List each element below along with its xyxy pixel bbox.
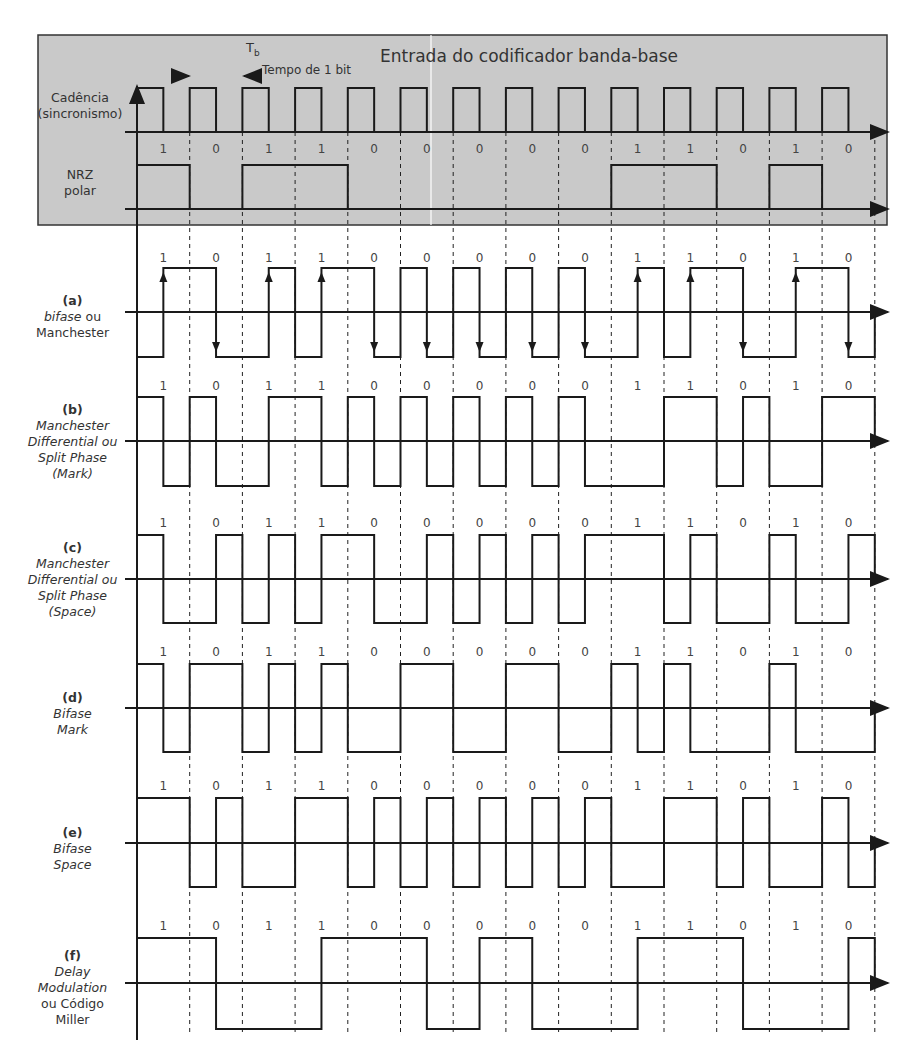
bit-label: 1: [265, 379, 273, 393]
signal-tag: (c): [20, 540, 125, 556]
signal-label-line: Miller: [20, 1012, 125, 1028]
bit-label: 0: [370, 779, 378, 793]
bit-label: 0: [423, 779, 431, 793]
bit-label: 0: [423, 142, 431, 156]
bit-label: 0: [212, 779, 220, 793]
bit-label: 0: [581, 645, 589, 659]
bit-label: 1: [634, 142, 642, 156]
signal-label-line: Delay: [20, 964, 125, 980]
signal-tag: (b): [20, 402, 125, 418]
bit-time-symbol: Tb: [246, 40, 260, 58]
signal-label-line: (Space): [20, 604, 125, 620]
falling-edge-arrow-icon: [212, 342, 220, 352]
diagram-title: Entrada do codificador banda-base: [380, 46, 678, 66]
signal-label-line: Bifase: [20, 706, 125, 722]
bit-label: 1: [265, 919, 273, 933]
bit-label: 0: [370, 516, 378, 530]
falling-edge-arrow-icon: [739, 342, 747, 352]
bit-label: 0: [476, 919, 484, 933]
signal-label-line: (Mark): [20, 466, 125, 482]
signal-label-f: (f)DelayModulationou CódigoMiller: [20, 948, 125, 1028]
bit-label: 0: [423, 516, 431, 530]
signal-label-c: (c)ManchesterDifferential ouSplit Phase(…: [20, 540, 125, 620]
bit-label: 1: [634, 516, 642, 530]
bit-label: 1: [160, 645, 168, 659]
signal-tag: (d): [20, 690, 125, 706]
bit-label: 0: [528, 379, 536, 393]
bit-label: 0: [423, 251, 431, 265]
bit-label: 0: [581, 379, 589, 393]
bit-label: 1: [160, 516, 168, 530]
bit-label: 1: [634, 379, 642, 393]
bit-label: 1: [792, 645, 800, 659]
signal-label-line: ou Código: [20, 996, 125, 1012]
bit-label: 1: [792, 142, 800, 156]
bit-label: 0: [528, 645, 536, 659]
bit-label: 1: [687, 919, 695, 933]
bit-label: 0: [476, 142, 484, 156]
signal-label-line: NRZ: [30, 167, 130, 183]
bit-label: 0: [739, 919, 747, 933]
signal-label-line: Split Phase: [20, 588, 125, 604]
bit-label: 0: [212, 379, 220, 393]
bit-label: 1: [634, 645, 642, 659]
rising-edge-arrow-icon: [317, 272, 325, 282]
bit-label: 1: [318, 379, 326, 393]
signal-label-a: (a)bifase ouManchester: [20, 293, 125, 341]
signal-label-line: Mark: [20, 722, 125, 738]
bit-label: 0: [423, 919, 431, 933]
bit-label: 1: [160, 142, 168, 156]
bit-label: 1: [318, 142, 326, 156]
falling-edge-arrow-icon: [844, 342, 852, 352]
signal-label-clock: Cadência(sincronismo): [30, 90, 130, 122]
signal-tag: (a): [20, 293, 125, 309]
signal-label-line: Manchester: [20, 418, 125, 434]
falling-edge-arrow-icon: [423, 342, 431, 352]
signal-label-line: Modulation: [20, 980, 125, 996]
bit-label: 0: [581, 919, 589, 933]
bit-label: 1: [265, 516, 273, 530]
bit-label: 1: [634, 779, 642, 793]
bit-label: 0: [476, 779, 484, 793]
bit-label: 1: [160, 379, 168, 393]
bit-label: 1: [318, 251, 326, 265]
bit-label: 0: [581, 516, 589, 530]
signal-label-line: Differential ou: [20, 434, 125, 450]
bit-label: 1: [792, 379, 800, 393]
bit-label: 0: [739, 516, 747, 530]
signal-label-line: (sincronismo): [30, 106, 130, 122]
bit-label: 0: [476, 251, 484, 265]
bit-label: 0: [845, 251, 853, 265]
rising-edge-arrow-icon: [159, 272, 167, 282]
bit-label: 1: [687, 142, 695, 156]
signal-label-line: Split Phase: [20, 450, 125, 466]
rising-edge-arrow-icon: [634, 272, 642, 282]
bit-label: 0: [739, 251, 747, 265]
falling-edge-arrow-icon: [476, 342, 484, 352]
signal-tag: (f): [20, 948, 125, 964]
bit-label: 1: [265, 142, 273, 156]
bit-label: 0: [528, 779, 536, 793]
bit-label: 0: [528, 251, 536, 265]
bit-label: 0: [528, 516, 536, 530]
rising-edge-arrow-icon: [686, 272, 694, 282]
bit-label: 1: [318, 779, 326, 793]
signal-label-b: (b)ManchesterDifferential ouSplit Phase(…: [20, 402, 125, 482]
bit-label: 0: [212, 251, 220, 265]
bit-label: 0: [739, 645, 747, 659]
bit-label: 1: [792, 516, 800, 530]
bit-label: 0: [581, 251, 589, 265]
bit-label: 0: [845, 142, 853, 156]
bit-label: 0: [212, 142, 220, 156]
bit-label: 1: [160, 251, 168, 265]
bit-label: 0: [739, 779, 747, 793]
bit-label: 0: [528, 142, 536, 156]
bit-label: 1: [160, 779, 168, 793]
falling-edge-arrow-icon: [528, 342, 536, 352]
bit-label: 1: [634, 919, 642, 933]
bit-label: 1: [792, 779, 800, 793]
bit-label: 0: [845, 779, 853, 793]
signal-label-line: Differential ou: [20, 572, 125, 588]
bit-label: 0: [212, 645, 220, 659]
bit-label: 1: [687, 645, 695, 659]
